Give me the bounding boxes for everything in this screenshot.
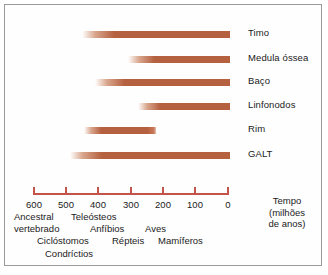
bar-fill bbox=[84, 127, 156, 134]
organ-label-linfonodos: Linfonodos bbox=[248, 99, 295, 110]
taxon-label-mamiferos: Mamíferos bbox=[158, 235, 203, 246]
taxon-label-ancestral: Ancestral bbox=[14, 211, 54, 222]
axis-title-line-1: Tempo bbox=[250, 195, 324, 207]
taxon-label-vertebrado: vertebrado bbox=[14, 223, 59, 234]
axis-tick-label-100: 100 bbox=[187, 199, 203, 210]
bar-fill bbox=[70, 152, 230, 159]
bar-baco bbox=[95, 79, 230, 86]
taxon-label-ciclostomos: Ciclóstomos bbox=[37, 235, 89, 246]
axis-tick-label-500: 500 bbox=[58, 199, 74, 210]
axis-tick-200 bbox=[162, 187, 164, 195]
axis-tick-0 bbox=[227, 187, 229, 195]
organ-label-galt: GALT bbox=[248, 148, 273, 159]
organ-label-timo: Timo bbox=[248, 27, 269, 38]
taxon-label-aves: Aves bbox=[145, 223, 166, 234]
figure-root: Timo Medula óssea Baço Linfonodos Rim GA… bbox=[0, 0, 328, 275]
axis-tick-label-300: 300 bbox=[123, 199, 139, 210]
organ-label-medula-ossea: Medula óssea bbox=[248, 52, 308, 63]
plot-area: Timo Medula óssea Baço Linfonodos Rim GA… bbox=[0, 0, 328, 275]
bar-fill bbox=[95, 79, 230, 86]
axis-tick-label-600: 600 bbox=[26, 199, 42, 210]
bar-rim bbox=[84, 127, 156, 134]
axis-tick-100 bbox=[194, 187, 196, 195]
axis-tick-600 bbox=[33, 187, 35, 195]
axis-tick-500 bbox=[65, 187, 67, 195]
axis-title-line-2: (milhões bbox=[250, 207, 324, 219]
bar-fill bbox=[128, 56, 230, 63]
organ-label-rim: Rim bbox=[248, 123, 265, 134]
axis-tick-300 bbox=[130, 187, 132, 195]
axis-tick-400 bbox=[97, 187, 99, 195]
bar-timo bbox=[82, 31, 230, 38]
axis-tick-label-400: 400 bbox=[90, 199, 106, 210]
bar-fill bbox=[138, 103, 230, 110]
axis-tick-label-200: 200 bbox=[155, 199, 171, 210]
axis-tick-label-0: 0 bbox=[225, 199, 230, 210]
bar-galt bbox=[70, 152, 230, 159]
taxon-label-repteis: Répteis bbox=[112, 235, 144, 246]
taxon-label-teleosteos: Teleósteos bbox=[71, 211, 116, 222]
organ-label-baco: Baço bbox=[248, 75, 270, 86]
axis-title-line-3: de anos) bbox=[250, 218, 324, 230]
axis-title: Tempo (milhões de anos) bbox=[250, 195, 324, 230]
bar-medula-ossea bbox=[128, 56, 230, 63]
bar-linfonodos bbox=[138, 103, 230, 110]
taxon-label-condrictios: Condríctios bbox=[45, 248, 93, 259]
taxon-label-anfibios: Anfíbios bbox=[90, 223, 124, 234]
bar-fill bbox=[82, 31, 230, 38]
